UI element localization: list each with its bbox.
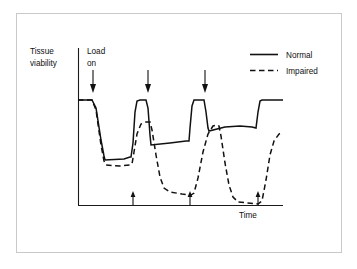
series-line-normal	[78, 100, 283, 160]
annotation-load-on-line1: Load	[87, 47, 106, 56]
arrow-head	[202, 84, 208, 93]
figure-root: Tissue viability Load on Time Normal Imp…	[0, 0, 357, 269]
chart-canvas: Tissue viability Load on Time Normal Imp…	[0, 0, 357, 269]
down-arrow-1	[90, 70, 96, 93]
arrow-head	[256, 191, 261, 197]
legend: Normal Impaired	[250, 51, 318, 76]
arrow-head	[145, 84, 151, 93]
arrow-head	[131, 191, 136, 197]
up-arrow-2	[188, 191, 193, 205]
y-axis-label-line2: viability	[30, 59, 58, 68]
annotation-load-on-line2: on	[87, 59, 97, 68]
down-arrow-group	[90, 70, 208, 93]
up-arrow-1	[131, 191, 136, 205]
legend-label-impaired: Impaired	[286, 67, 318, 76]
down-arrow-3	[202, 70, 208, 93]
legend-label-normal: Normal	[286, 51, 313, 60]
y-axis-label-line1: Tissue	[30, 47, 54, 56]
arrow-head	[90, 84, 96, 93]
x-axis-label: Time	[239, 211, 257, 220]
series-line-impaired	[78, 100, 283, 204]
down-arrow-2	[145, 70, 151, 93]
